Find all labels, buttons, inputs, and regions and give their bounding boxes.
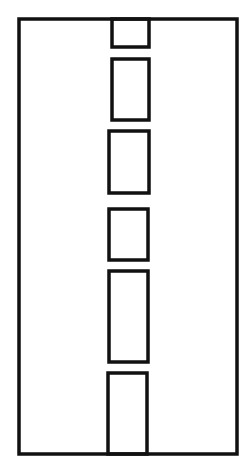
inner-rectangle-1 <box>112 19 149 47</box>
inner-rectangle-6 <box>108 373 147 454</box>
inner-rectangle-2 <box>112 59 149 120</box>
outer-rectangle <box>19 19 237 454</box>
diagram-canvas <box>0 0 252 470</box>
inner-rectangle-4 <box>109 209 148 260</box>
inner-rectangle-column <box>108 19 149 454</box>
inner-rectangle-3 <box>109 131 149 193</box>
inner-rectangle-5 <box>109 271 148 362</box>
